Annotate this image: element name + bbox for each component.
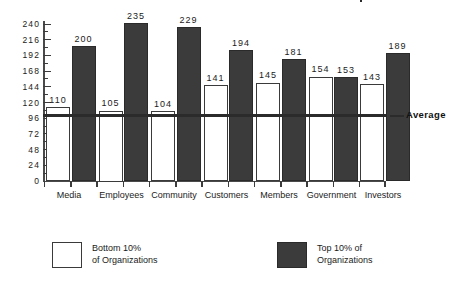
bar-bottom-investors bbox=[360, 84, 384, 182]
y-axis-tick bbox=[43, 86, 51, 87]
bar-value-label: 235 bbox=[118, 12, 154, 21]
bar-value-label: 194 bbox=[223, 39, 259, 48]
x-axis-tick bbox=[384, 181, 385, 187]
y-axis-tick bbox=[43, 39, 51, 40]
y-tick-label: 72 bbox=[10, 130, 40, 138]
x-axis-tick bbox=[306, 181, 307, 187]
x-axis-tick bbox=[123, 181, 124, 187]
bar-value-label: 110 bbox=[40, 96, 76, 105]
bar-bottom-government bbox=[309, 77, 333, 182]
y-axis-minor-tick bbox=[43, 63, 48, 64]
y-tick-label: 216 bbox=[10, 36, 40, 44]
bar-bottom-community bbox=[151, 111, 175, 181]
x-axis-tick bbox=[70, 181, 71, 187]
y-axis-minor-tick bbox=[43, 78, 48, 79]
y-tick-label: 48 bbox=[10, 146, 40, 154]
bar-value-label: 145 bbox=[250, 71, 286, 80]
bar-value-label: 229 bbox=[171, 16, 207, 25]
y-tick-label: 240 bbox=[10, 20, 40, 28]
average-line bbox=[43, 114, 386, 117]
legend-label-top-line1: Top 10% of bbox=[317, 243, 362, 255]
y-tick-label: 144 bbox=[10, 83, 40, 91]
bar-top-government bbox=[334, 77, 358, 181]
y-axis-minor-tick bbox=[43, 47, 48, 48]
x-axis-tick bbox=[254, 181, 255, 187]
x-axis-tick bbox=[175, 181, 176, 187]
bar-value-label: 105 bbox=[93, 99, 129, 108]
x-axis-tick bbox=[201, 181, 202, 187]
bar-bottom-customers bbox=[204, 85, 228, 181]
x-axis-tick bbox=[228, 181, 229, 187]
bar-bottom-employees bbox=[99, 111, 123, 182]
y-tick-label: 168 bbox=[10, 67, 40, 75]
y-tick-label: 120 bbox=[10, 99, 40, 107]
y-tick-label: 24 bbox=[10, 161, 40, 169]
average-line-stub bbox=[390, 115, 404, 117]
legend-label-bottom-line1: Bottom 10% bbox=[92, 243, 141, 255]
average-label: Average bbox=[406, 110, 446, 120]
y-tick-label: 0 bbox=[10, 177, 40, 185]
x-axis-tick bbox=[96, 181, 97, 187]
y-axis-minor-tick bbox=[43, 94, 48, 95]
legend-swatch-bottom-icon bbox=[52, 242, 82, 268]
legend-label-bottom-line2: of Organizations bbox=[92, 255, 158, 267]
chart-figure: 240 216 192 168 144 120 96 72 48 24 0 bbox=[0, 0, 453, 281]
y-axis-tick bbox=[43, 55, 51, 56]
y-axis-tick bbox=[43, 24, 51, 25]
bar-bottom-media bbox=[46, 107, 70, 181]
legend-swatch-top-icon bbox=[277, 242, 307, 268]
legend-label-top-line2: Organizations bbox=[317, 255, 373, 267]
bar-value-label: 200 bbox=[66, 35, 102, 44]
bar-value-label: 189 bbox=[380, 42, 416, 51]
x-axis-tick bbox=[149, 181, 150, 187]
bar-value-label: 143 bbox=[354, 73, 390, 82]
chart-legend: Bottom 10% of Organizations Top 10% of O… bbox=[0, 236, 453, 281]
y-axis-minor-tick bbox=[43, 31, 48, 32]
x-axis-tick bbox=[44, 181, 45, 187]
x-axis-tick bbox=[280, 181, 281, 187]
bar-bottom-members bbox=[256, 83, 280, 182]
x-category-label: Investors bbox=[352, 190, 414, 200]
y-tick-label: 96 bbox=[10, 114, 40, 122]
plot-area: 240 216 192 168 144 120 96 72 48 24 0 bbox=[0, 0, 453, 200]
y-tick-label: 192 bbox=[10, 51, 40, 59]
bar-value-label: 181 bbox=[276, 48, 312, 57]
bar-top-investors bbox=[360, 0, 362, 2]
x-axis-tick bbox=[333, 181, 334, 187]
bar-value-label: 104 bbox=[145, 100, 181, 109]
x-axis-tick bbox=[359, 181, 360, 187]
bar-value-label: 141 bbox=[198, 74, 234, 83]
y-axis-tick bbox=[43, 71, 51, 72]
